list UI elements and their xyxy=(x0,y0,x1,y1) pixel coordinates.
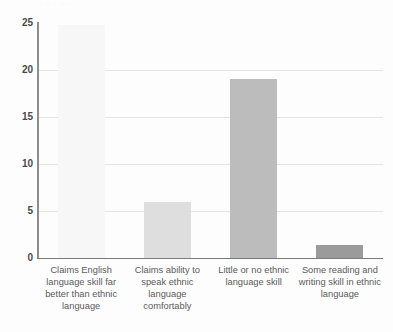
y-tick-label-10: 10 xyxy=(5,159,33,169)
x-axis-line xyxy=(37,258,383,260)
bar-1[interactable] xyxy=(58,25,105,258)
category-label-1: Claims English language skill far better… xyxy=(38,264,124,332)
bar-chart: · · ·· · ··· 0510152025 Claims English l… xyxy=(0,0,393,332)
category-label-4: Some reading and writing skill in ethnic… xyxy=(297,264,383,332)
bar-4[interactable] xyxy=(316,245,363,258)
bar-2[interactable] xyxy=(144,202,191,258)
y-tick-label-25: 25 xyxy=(5,18,33,28)
bar-3[interactable] xyxy=(230,79,277,258)
category-label-2: Claims ability to speak ethnic language … xyxy=(124,264,210,332)
x-axis-category-labels: Claims English language skill far better… xyxy=(38,264,383,332)
y-tick-label-20: 20 xyxy=(5,65,33,75)
bars-layer xyxy=(38,23,383,258)
y-tick-label-0: 0 xyxy=(5,253,33,263)
y-tick-label-15: 15 xyxy=(5,112,33,122)
y-axis-tick-labels: 0510152025 xyxy=(0,0,33,332)
cropped-title-remnant: · · ·· · ··· xyxy=(34,0,234,9)
y-tick-label-5: 5 xyxy=(5,206,33,216)
category-label-3: Little or no ethnic language skill xyxy=(211,264,297,332)
